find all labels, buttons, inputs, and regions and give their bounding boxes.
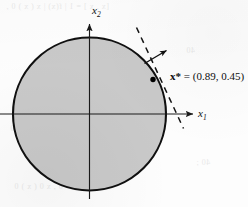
x-star-point-marker: [150, 77, 155, 82]
x2-axis-label: x2: [92, 4, 101, 19]
x2-axis-label-subscript: 2: [97, 10, 101, 19]
x-star-equals: =: [181, 70, 193, 82]
diagram-svg: [0, 0, 248, 207]
x1-axis-label: x1: [198, 107, 207, 122]
x1-axis-label-subscript: 1: [203, 113, 207, 122]
x-star-value: (0.89, 0.45): [193, 70, 244, 82]
figure-container: [x , x ] = 1 | f(x) | x ( x ) 0 , 40 ( x…: [0, 0, 248, 207]
x-star-annotation: x* = (0.89, 0.45): [170, 70, 244, 82]
